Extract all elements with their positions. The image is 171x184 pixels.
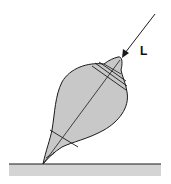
ground-surface [9, 164, 161, 176]
angular-momentum-label: L [140, 44, 147, 58]
arrowhead-icon [122, 49, 129, 58]
spinning-top-diagram [0, 0, 171, 184]
